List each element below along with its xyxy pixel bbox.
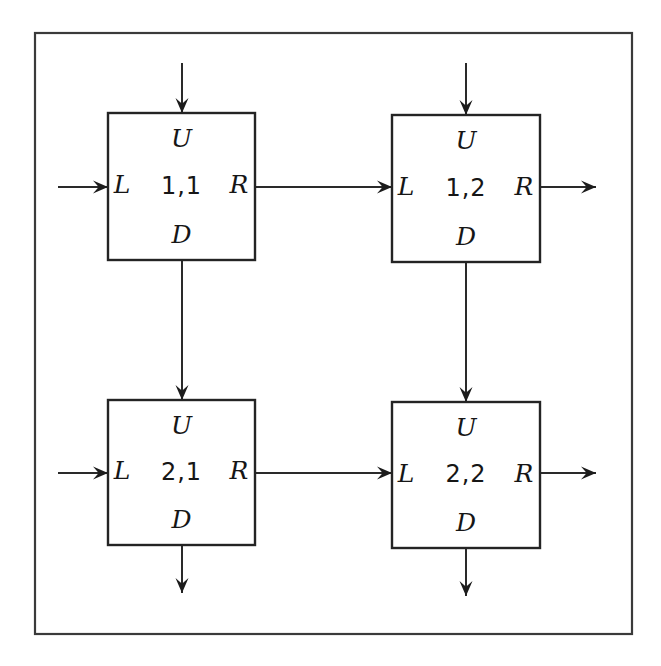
cell-2-1-port-left-label: L xyxy=(113,456,131,485)
cell-2-1[interactable]: ULRD2,1 xyxy=(108,400,255,545)
cell-2-2-port-up-label: U xyxy=(455,413,477,442)
input-left-cell-2-1 xyxy=(58,467,108,480)
input-top-cell-1-2 xyxy=(460,63,473,115)
cell-2-1-port-right-label: R xyxy=(229,456,249,485)
cell-2-2[interactable]: ULRD2,2 xyxy=(392,402,540,548)
diagram-canvas: ULRD1,1ULRD1,2ULRD2,1ULRD2,2 xyxy=(0,0,661,666)
cell-2-1-port-down-label: D xyxy=(170,505,191,534)
diagram-svg: ULRD1,1ULRD1,2ULRD2,1ULRD2,2 xyxy=(0,0,661,666)
cell-2-2-port-down-label: D xyxy=(455,508,476,537)
cell-1-2-port-right-label: R xyxy=(514,172,534,201)
cell-1-1-port-down-label: D xyxy=(170,220,191,249)
cell-1-1[interactable]: ULRD1,1 xyxy=(108,113,255,260)
output-bottom-cell-2-2 xyxy=(460,548,473,596)
cell-2-2-port-left-label: L xyxy=(397,459,415,488)
link-cell-1-1-to-1-2 xyxy=(255,181,392,194)
input-top-cell-1-1 xyxy=(176,63,189,113)
link-cell-1-2-to-2-2 xyxy=(460,262,473,402)
link-cell-1-1-to-2-1 xyxy=(176,260,189,400)
output-right-cell-2-2 xyxy=(540,467,596,480)
cell-1-1-port-up-label: U xyxy=(171,124,193,153)
cell-2-1-port-up-label: U xyxy=(171,411,193,440)
cell-1-1-port-right-label: R xyxy=(229,170,249,199)
link-cell-2-1-to-2-2 xyxy=(255,467,392,480)
output-right-cell-1-2 xyxy=(540,181,596,194)
cell-layer: ULRD1,1ULRD1,2ULRD2,1ULRD2,2 xyxy=(108,113,540,548)
cell-1-2-port-left-label: L xyxy=(397,172,415,201)
cell-2-2-port-right-label: R xyxy=(514,459,534,488)
cell-1-2-port-down-label: D xyxy=(455,222,476,251)
input-left-cell-1-1 xyxy=(58,181,108,194)
cell-2-2-id-label: 2,2 xyxy=(445,460,486,488)
cell-2-1-id-label: 2,1 xyxy=(161,458,202,486)
cell-1-2-port-up-label: U xyxy=(455,126,477,155)
cell-1-2-id-label: 1,2 xyxy=(445,174,486,202)
output-bottom-cell-2-1 xyxy=(176,545,189,593)
cell-1-1-port-left-label: L xyxy=(113,170,131,199)
cell-1-2[interactable]: ULRD1,2 xyxy=(392,115,540,262)
cell-1-1-id-label: 1,1 xyxy=(161,172,202,200)
